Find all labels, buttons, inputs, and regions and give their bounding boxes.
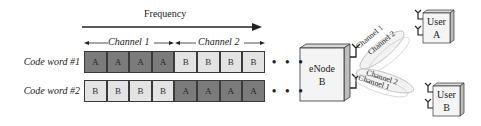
- cell: B: [242, 51, 265, 73]
- cell: A: [107, 51, 130, 73]
- cell: B: [84, 80, 107, 102]
- cell: B: [220, 51, 243, 73]
- cell: A: [84, 51, 107, 73]
- cell: A: [242, 80, 265, 102]
- cell: A: [129, 51, 152, 73]
- cell: B: [107, 80, 130, 102]
- enodeb-label: eNode B: [300, 62, 344, 88]
- code-word-2-cells: B B B B A A A A: [84, 80, 265, 102]
- cell: A: [152, 51, 175, 73]
- user-b-label: User B: [433, 88, 460, 114]
- code-word-2-label: Code word #2: [0, 85, 80, 96]
- cell: B: [197, 51, 220, 73]
- code-word-1-cells: A A A A B B B B: [84, 51, 265, 73]
- code-word-1-label: Code word #1: [0, 56, 80, 67]
- cell: A: [174, 80, 197, 102]
- cell: B: [174, 51, 197, 73]
- frequency-label: Frequency: [144, 8, 186, 19]
- user-a-label: User A: [423, 15, 450, 41]
- cell: B: [152, 80, 175, 102]
- channel-2-label: Channel 2: [198, 36, 239, 47]
- cell: A: [220, 80, 243, 102]
- channel-1-label: Channel 1: [108, 36, 149, 47]
- cell: B: [129, 80, 152, 102]
- cell: A: [197, 80, 220, 102]
